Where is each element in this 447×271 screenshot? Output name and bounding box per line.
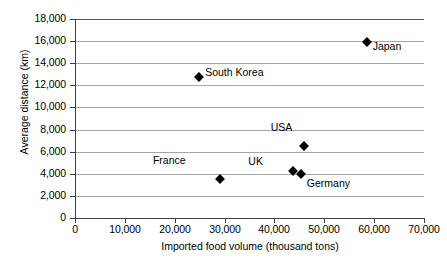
y-axis-tick-label: 12,000 (34, 79, 66, 90)
gridline-y (75, 107, 424, 108)
y-axis-tick-label: 6,000 (40, 146, 66, 157)
y-axis-line (75, 19, 76, 219)
y-axis-tick-label: 0 (60, 212, 66, 223)
data-point-label: Germany (307, 178, 350, 189)
data-point-label: UK (248, 156, 263, 167)
gridline-y (75, 152, 424, 153)
y-axis-tick (70, 130, 75, 131)
x-axis-tick-label: 70,000 (394, 224, 447, 235)
gridline-y (75, 130, 424, 131)
x-axis-line (75, 218, 425, 219)
y-axis-tick (70, 174, 75, 175)
y-axis-tick (70, 63, 75, 64)
y-axis-tick (70, 196, 75, 197)
y-axis-tick (70, 41, 75, 42)
y-axis-tick-label: 16,000 (34, 35, 66, 46)
y-axis-tick-label: 2,000 (40, 190, 66, 201)
gridline-y (75, 174, 424, 175)
gridline-y (75, 19, 424, 20)
gridline-y (75, 196, 424, 197)
data-point-label: Japan (373, 41, 402, 52)
y-axis-tick-label: 4,000 (40, 168, 66, 179)
y-axis-tick (70, 107, 75, 108)
gridline-y (75, 63, 424, 64)
y-axis-title: Average distance (km) (18, 12, 30, 192)
y-axis-tick (70, 85, 75, 86)
y-axis-tick-label: 18,000 (34, 13, 66, 24)
gridline-y (75, 85, 424, 86)
y-axis-tick (70, 19, 75, 20)
y-axis-tick-label: 10,000 (34, 101, 66, 112)
y-axis-tick (70, 152, 75, 153)
y-axis-tick-label: 14,000 (34, 57, 66, 68)
x-axis-title: Imported food volume (thousand tons) (75, 240, 425, 252)
y-axis-tick-label: 8,000 (40, 124, 66, 135)
data-point-label: USA (271, 122, 293, 133)
scatter-chart: Average distance (km) Imported food volu… (0, 0, 447, 271)
plot-area (75, 19, 424, 218)
data-point-label: France (153, 155, 186, 166)
data-point-label: South Korea (205, 67, 263, 78)
